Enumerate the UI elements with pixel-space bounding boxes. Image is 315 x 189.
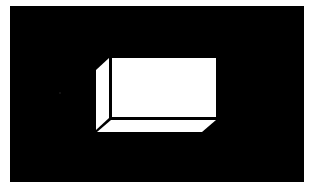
cuboid-front-face (112, 58, 216, 117)
cuboid-bottom-face (97, 120, 216, 132)
cuboid-figure (0, 0, 315, 189)
cuboid-left-face (96, 58, 109, 130)
figure-canvas (0, 0, 315, 189)
image-speck (59, 92, 61, 94)
